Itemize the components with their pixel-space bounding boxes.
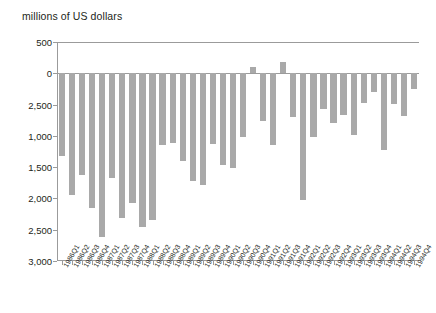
plot-area bbox=[57, 42, 419, 261]
y-axis-tick-label: 2,500 bbox=[28, 99, 52, 110]
bar bbox=[190, 73, 196, 181]
bar-column bbox=[170, 42, 176, 261]
bar bbox=[320, 73, 326, 109]
bar bbox=[310, 73, 316, 137]
bar bbox=[59, 73, 65, 156]
bar bbox=[401, 73, 407, 116]
y-axis-tick-label: 1,000 bbox=[28, 130, 52, 141]
bar bbox=[371, 73, 377, 92]
y-axis-labels: 50002,5001,0001,5002,0002,5003,000 bbox=[0, 42, 52, 261]
bar bbox=[139, 73, 145, 226]
bar-column bbox=[270, 42, 276, 261]
bar-column bbox=[320, 42, 326, 261]
bar bbox=[391, 73, 397, 104]
bar-column bbox=[180, 42, 186, 261]
bar-column bbox=[230, 42, 236, 261]
bar bbox=[300, 73, 306, 199]
bar-column bbox=[260, 42, 266, 261]
bar bbox=[149, 73, 155, 220]
bar bbox=[381, 73, 387, 149]
bar bbox=[200, 73, 206, 184]
bar-column bbox=[300, 42, 306, 261]
y-axis-tick-label: 3,000 bbox=[28, 256, 52, 267]
bar-column bbox=[290, 42, 296, 261]
bar bbox=[230, 73, 236, 168]
bar-column bbox=[190, 42, 196, 261]
bar-column bbox=[280, 42, 286, 261]
y-axis-tick-label: 2,500 bbox=[28, 224, 52, 235]
bar bbox=[119, 73, 125, 218]
axis-units-label: millions of US dollars bbox=[22, 10, 122, 22]
bar bbox=[351, 73, 357, 135]
bar-series bbox=[57, 42, 419, 261]
bar bbox=[290, 73, 296, 117]
bar-column bbox=[119, 42, 125, 261]
bar bbox=[260, 73, 266, 121]
bar-column bbox=[89, 42, 95, 261]
bar bbox=[270, 73, 276, 144]
bar-column bbox=[200, 42, 206, 261]
bar bbox=[109, 73, 115, 178]
bar bbox=[129, 73, 135, 203]
bar-column bbox=[240, 42, 246, 261]
bar-column bbox=[129, 42, 135, 261]
bar-column bbox=[371, 42, 377, 261]
bar bbox=[99, 73, 105, 237]
bar-column bbox=[210, 42, 216, 261]
bar bbox=[250, 67, 256, 73]
bar-column bbox=[401, 42, 407, 261]
bar-column bbox=[330, 42, 336, 261]
bar bbox=[240, 73, 246, 137]
bar-column bbox=[159, 42, 165, 261]
bar-column bbox=[139, 42, 145, 261]
bar-column bbox=[79, 42, 85, 261]
bar bbox=[180, 73, 186, 161]
bar-column bbox=[109, 42, 115, 261]
y-axis-tick-label: 500 bbox=[36, 37, 52, 48]
bar-column bbox=[220, 42, 226, 261]
bar-column bbox=[250, 42, 256, 261]
y-axis-tick-label: 1,500 bbox=[28, 162, 52, 173]
bar bbox=[69, 73, 75, 195]
bar-column bbox=[351, 42, 357, 261]
bar bbox=[89, 73, 95, 208]
bar-column bbox=[391, 42, 397, 261]
bar-column bbox=[310, 42, 316, 261]
bar bbox=[280, 62, 286, 73]
bar bbox=[330, 73, 336, 123]
bar-column bbox=[149, 42, 155, 261]
bar bbox=[361, 73, 367, 102]
bar-column bbox=[340, 42, 346, 261]
bar bbox=[340, 73, 346, 114]
bar bbox=[411, 73, 417, 89]
bar bbox=[79, 73, 85, 174]
y-axis-tick-label: 0 bbox=[47, 68, 52, 79]
bar bbox=[220, 73, 226, 165]
bar bbox=[210, 73, 216, 144]
y-axis-tick-label: 2,000 bbox=[28, 193, 52, 204]
bar-column bbox=[59, 42, 65, 261]
bar bbox=[159, 73, 165, 145]
bar-column bbox=[99, 42, 105, 261]
bar-column bbox=[411, 42, 417, 261]
bar bbox=[170, 73, 176, 143]
bar-column bbox=[69, 42, 75, 261]
x-axis-labels: 1986Q11986Q21986Q31986Q41987Q11987Q21987… bbox=[57, 265, 436, 313]
bar-column bbox=[381, 42, 387, 261]
bar-column bbox=[361, 42, 367, 261]
